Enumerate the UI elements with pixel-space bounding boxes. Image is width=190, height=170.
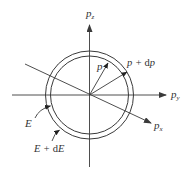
p-vector-label: p (96, 60, 103, 72)
py-axis-label: py (170, 88, 181, 102)
e-plus-de-pointer-arrow (52, 130, 60, 141)
p-plus-dp-vector-label: p + dp (126, 57, 155, 68)
e-pointer-arrow (35, 106, 51, 118)
e-shell-label: E (24, 117, 32, 129)
e-plus-de-shell-label: E + dE (33, 143, 65, 154)
px-axis-label: px (153, 119, 164, 133)
px-axis (25, 64, 151, 123)
pz-axis-label: pz (85, 7, 95, 21)
p-plus-dp-vector (90, 72, 128, 95)
momentum-shell-diagram: pz py px p p + dp E E + dE (0, 0, 190, 170)
